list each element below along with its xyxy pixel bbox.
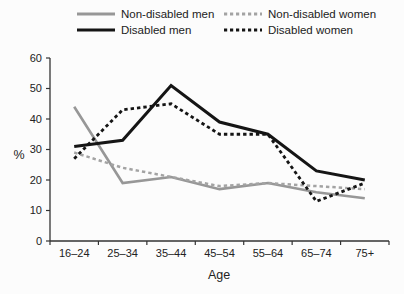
legend-label: Non-disabled men [121, 8, 214, 20]
legend: Non-disabled men Non-disabled women Disa… [76, 8, 376, 36]
legend-item-disabled-men: Disabled men [76, 24, 223, 36]
y-tick-label: 40 [30, 113, 42, 125]
x-axis-label: Age [208, 268, 230, 282]
chart-svg: 010203040506016–2425–3435–4445–5455–6465… [0, 0, 404, 294]
legend-item-non-disabled-men: Non-disabled men [76, 8, 223, 20]
y-tick-label: 0 [36, 235, 42, 247]
x-tick-label: 55–64 [253, 247, 284, 259]
y-tick-label: 10 [30, 204, 42, 216]
legend-label: Disabled men [121, 24, 191, 36]
legend-swatch [223, 26, 263, 34]
x-tick-label: 65–74 [301, 247, 332, 259]
y-tick-label: 50 [30, 82, 42, 94]
legend-swatch [223, 10, 263, 18]
y-axis-label: % [13, 148, 24, 162]
y-tick-label: 60 [30, 52, 42, 64]
legend-item-non-disabled-women: Non-disabled women [223, 8, 376, 20]
x-tick-label: 25–34 [107, 247, 138, 259]
plot-area: 010203040506016–2425–3435–4445–5455–6465… [30, 52, 389, 260]
y-tick-label: 20 [30, 174, 42, 186]
figure: Non-disabled men Non-disabled women Disa… [0, 0, 404, 294]
x-tick-label: 45–54 [204, 247, 235, 259]
legend-label: Non-disabled women [268, 8, 376, 20]
x-tick-label: 35–44 [156, 247, 187, 259]
legend-label: Disabled women [268, 24, 353, 36]
legend-item-disabled-women: Disabled women [223, 24, 376, 36]
legend-swatch [76, 10, 116, 18]
x-tick-label: 75+ [355, 247, 374, 259]
legend-swatch [76, 26, 116, 34]
y-tick-label: 30 [30, 143, 42, 155]
x-tick-label: 16–24 [59, 247, 90, 259]
